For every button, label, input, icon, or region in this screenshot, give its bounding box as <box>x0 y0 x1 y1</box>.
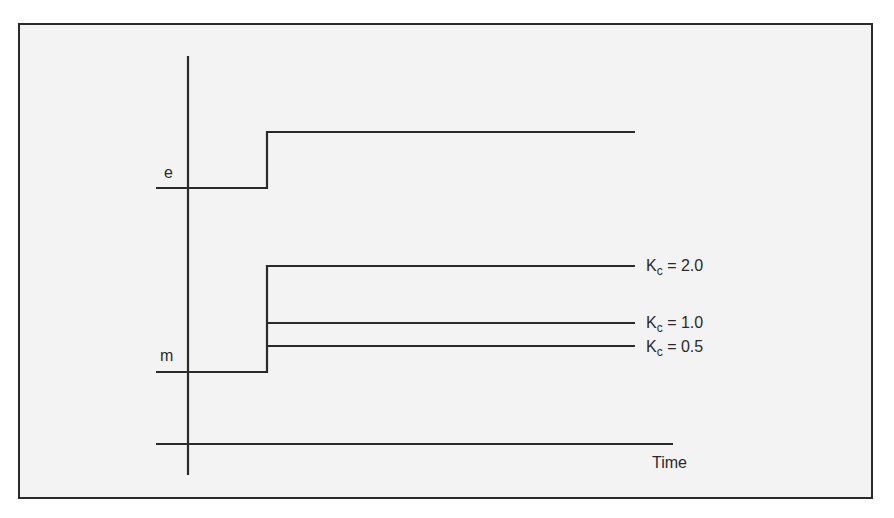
kc-2-label: Kc = 2.0 <box>646 258 703 277</box>
kc-1-value: = 1.0 <box>667 314 703 331</box>
e-label: e <box>164 165 173 181</box>
k-symbol: K <box>646 338 657 355</box>
k-symbol: K <box>646 314 657 331</box>
e-step-line <box>156 132 635 188</box>
time-label: Time <box>652 455 687 471</box>
kc-0-5-label: Kc = 0.5 <box>646 339 703 358</box>
m-step-kc-2 <box>156 266 635 372</box>
k-sub: c <box>657 345 663 359</box>
kc-0-5-value: = 0.5 <box>667 338 703 355</box>
kc-1-label: Kc = 1.0 <box>646 315 703 334</box>
k-symbol: K <box>646 257 657 274</box>
kc-2-value: = 2.0 <box>667 257 703 274</box>
step-response-plot <box>0 0 894 518</box>
m-label: m <box>160 348 173 364</box>
k-sub: c <box>657 264 663 278</box>
k-sub: c <box>657 321 663 335</box>
